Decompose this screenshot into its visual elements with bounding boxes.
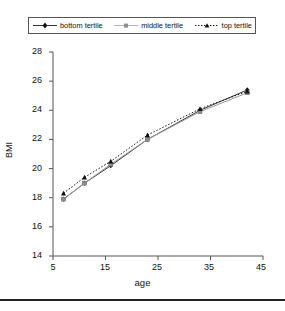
data-point: [108, 159, 113, 164]
plot-area: [0, 0, 285, 311]
footer-rule: [0, 299, 285, 301]
chart-figure: bottom tertile middle tertile top tertil…: [0, 0, 285, 311]
series-line: [64, 90, 248, 199]
data-point: [61, 191, 66, 196]
series-bottom-tertile: [61, 87, 249, 201]
data-point: [62, 197, 66, 201]
data-point: [146, 137, 150, 141]
series-line: [64, 93, 248, 199]
data-point: [145, 132, 150, 137]
data-series-layer: [61, 87, 250, 201]
x-axis-ticks: [53, 256, 263, 260]
data-point: [82, 175, 87, 180]
series-middle-tertile: [62, 91, 250, 201]
data-point: [83, 181, 87, 185]
y-axis-ticks: [49, 52, 53, 256]
